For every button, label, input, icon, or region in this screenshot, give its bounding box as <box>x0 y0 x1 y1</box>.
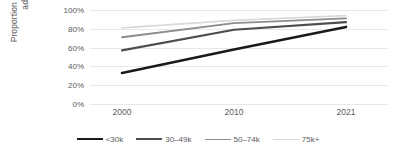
y-axis-tick-label: 100% <box>64 6 84 15</box>
y-axis-tick-label: 40% <box>68 62 84 71</box>
legend-item[interactable]: 30–49k <box>136 135 191 144</box>
legend-item[interactable]: <30k <box>77 135 124 144</box>
legend-swatch-icon <box>205 139 231 140</box>
legend: <30k30–49k50–74k75k+ <box>0 131 396 147</box>
line-chart: Proportion of American adults 0%20%40%60… <box>0 0 396 155</box>
plot-area <box>90 10 388 104</box>
series-lines <box>90 10 388 104</box>
y-axis-title-line1: Proportion of American <box>9 0 19 42</box>
y-axis-tick-label: 60% <box>68 43 84 52</box>
legend-item[interactable]: 75k+ <box>273 135 320 144</box>
y-axis-tick-label: 0% <box>72 100 84 109</box>
legend-swatch-icon <box>77 138 103 140</box>
y-axis-tick-label: 20% <box>68 81 84 90</box>
legend-label: <30k <box>106 135 124 144</box>
y-axis-title: Proportion of American adults <box>2 0 38 46</box>
x-axis-tick-labels: 200020102021 <box>90 107 388 123</box>
series-line <box>122 22 346 50</box>
legend-swatch-icon <box>136 138 162 140</box>
series-line <box>122 16 346 28</box>
x-axis-tick-label: 2010 <box>225 107 244 117</box>
y-axis-title-text: Proportion of American adults <box>9 0 31 46</box>
gridline <box>90 104 388 105</box>
legend-label: 30–49k <box>165 135 191 144</box>
y-axis-tick-label: 80% <box>68 24 84 33</box>
x-axis-tick-label: 2000 <box>113 107 132 117</box>
y-axis-title-line2: adults <box>20 0 30 10</box>
legend-item[interactable]: 50–74k <box>205 135 260 144</box>
legend-swatch-icon <box>273 139 299 140</box>
legend-label: 75k+ <box>302 135 320 144</box>
y-axis-tick-labels: 0%20%40%60%80%100% <box>50 10 86 104</box>
legend-label: 50–74k <box>234 135 260 144</box>
x-axis-tick-label: 2021 <box>337 107 356 117</box>
